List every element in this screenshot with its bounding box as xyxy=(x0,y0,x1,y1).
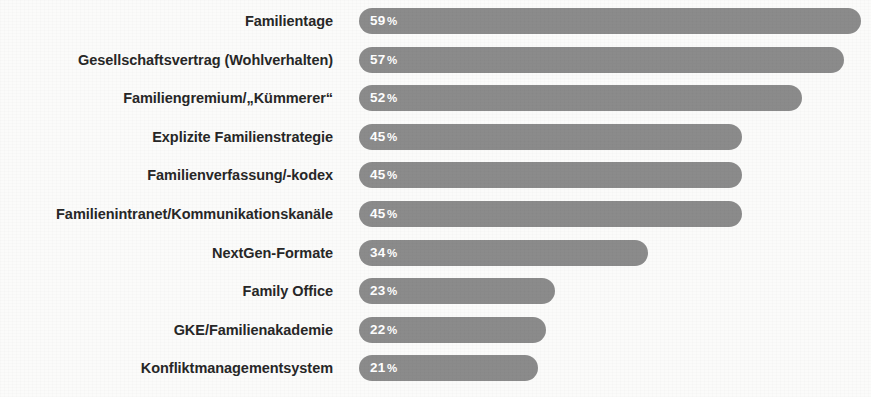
bar-row: Familientage59% xyxy=(0,8,871,34)
bar-value-suffix: % xyxy=(387,247,397,259)
bar-value-suffix: % xyxy=(387,15,397,27)
bar-row: Family Office23% xyxy=(0,278,871,304)
bar-value-suffix: % xyxy=(387,208,397,220)
category-label: Konfliktmanagementsystem xyxy=(141,355,333,381)
bar-value-label: 21% xyxy=(370,355,397,381)
bar-value-label: 59% xyxy=(370,8,397,34)
category-label: Explizite Familienstrategie xyxy=(152,124,333,150)
category-label: Familiengremium/„Kümmerer“ xyxy=(123,85,333,111)
bar-track: 23% xyxy=(359,278,871,304)
category-label: Familienintranet/Kommunikationskanäle xyxy=(56,201,333,227)
bar-track: 34% xyxy=(359,240,871,266)
bar-rows-container: Familientage59%Gesellschaftsvertrag (Woh… xyxy=(0,8,871,394)
bar-track: 59% xyxy=(359,8,871,34)
bar-row: Familiengremium/„Kümmerer“52% xyxy=(0,85,871,111)
bar-value-number: 34 xyxy=(370,245,385,260)
category-label: NextGen-Formate xyxy=(212,240,333,266)
bar-value-number: 22 xyxy=(370,322,385,337)
bar-value-suffix: % xyxy=(387,285,397,297)
bar-value-number: 45 xyxy=(370,129,385,144)
bar: 59% xyxy=(359,8,861,34)
bar-track: 45% xyxy=(359,162,871,188)
bar-value-suffix: % xyxy=(387,362,397,374)
bar: 34% xyxy=(359,240,648,266)
bar-track: 45% xyxy=(359,124,871,150)
bar-value-suffix: % xyxy=(387,92,397,104)
bar-row: Explizite Familienstrategie45% xyxy=(0,124,871,150)
bar-value-number: 21 xyxy=(370,360,385,375)
bar-track: 52% xyxy=(359,85,871,111)
bar-value-number: 45 xyxy=(370,167,385,182)
bar: 45% xyxy=(359,124,742,150)
bar-track: 21% xyxy=(359,355,871,381)
bar: 45% xyxy=(359,162,742,188)
bar: 21% xyxy=(359,355,538,381)
bar-value-number: 45 xyxy=(370,206,385,221)
bar: 57% xyxy=(359,47,844,73)
horizontal-bar-chart: Familientage59%Gesellschaftsvertrag (Woh… xyxy=(0,0,871,397)
category-label: Familienverfassung/-kodex xyxy=(147,162,333,188)
bar-value-number: 23 xyxy=(370,283,385,298)
bar-value-label: 45% xyxy=(370,124,397,150)
category-label: GKE/Familienakademie xyxy=(174,317,333,343)
bar-row: NextGen-Formate34% xyxy=(0,240,871,266)
bar-value-suffix: % xyxy=(387,324,397,336)
category-label: Familientage xyxy=(245,8,333,34)
bar-value-label: 22% xyxy=(370,317,397,343)
bar-row: GKE/Familienakademie22% xyxy=(0,317,871,343)
bar-value-label: 45% xyxy=(370,201,397,227)
bar-row: Familienintranet/Kommunikationskanäle45% xyxy=(0,201,871,227)
bar: 52% xyxy=(359,85,802,111)
bar-row: Gesellschaftsvertrag (Wohlverhalten)57% xyxy=(0,47,871,73)
category-label: Family Office xyxy=(243,278,333,304)
bar-value-suffix: % xyxy=(387,54,397,66)
bar-row: Konfliktmanagementsystem21% xyxy=(0,355,871,381)
bar-value-label: 45% xyxy=(370,162,397,188)
bar-value-suffix: % xyxy=(387,169,397,181)
bar-value-label: 52% xyxy=(370,85,397,111)
bar: 45% xyxy=(359,201,742,227)
bar-value-label: 23% xyxy=(370,278,397,304)
bar: 22% xyxy=(359,317,546,343)
category-label: Gesellschaftsvertrag (Wohlverhalten) xyxy=(78,47,333,73)
bar-value-suffix: % xyxy=(387,131,397,143)
bar-value-label: 34% xyxy=(370,240,397,266)
bar-track: 45% xyxy=(359,201,871,227)
bar-row: Familienverfassung/-kodex45% xyxy=(0,162,871,188)
bar-value-number: 52 xyxy=(370,90,385,105)
bar-track: 22% xyxy=(359,317,871,343)
bar-value-number: 57 xyxy=(370,52,385,67)
bar-value-number: 59 xyxy=(370,13,385,28)
bar: 23% xyxy=(359,278,555,304)
bar-value-label: 57% xyxy=(370,47,397,73)
bar-track: 57% xyxy=(359,47,871,73)
